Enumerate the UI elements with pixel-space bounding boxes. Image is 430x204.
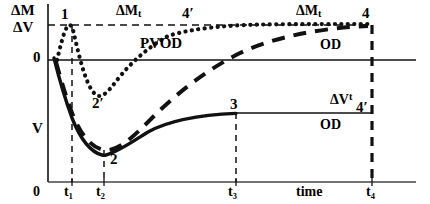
point-label-4-prime-top-text: 4′ [182, 5, 194, 21]
x-tick-label-t3: t₃ [228, 185, 237, 199]
curve-label-od-top-text: OD [320, 37, 341, 52]
curve-label-dm-t-left-text: ΔM [116, 3, 138, 18]
point-label-4-prime-top: 4′ [182, 6, 194, 21]
curve-label-pvod: PVOD [140, 36, 182, 51]
curve-label-od-bottom-text: OD [320, 117, 341, 132]
x-tick-label-t2-text: t₂ [96, 184, 105, 199]
point-label-1: 1 [61, 7, 69, 22]
curve-label-od-top: OD [320, 38, 341, 52]
y-axis-label-delta-v: ΔV [13, 20, 33, 35]
x-tick-label-t4-text: t₄ [366, 184, 375, 199]
point-label-4-top-text: 4 [362, 5, 370, 21]
curve-label-dm-t-right-sub: t [318, 8, 321, 19]
x-tick-label-t1-text: t₁ [64, 184, 73, 199]
point-label-2: 2 [110, 152, 118, 167]
curve-label-dm-t-left: ΔMt [116, 4, 141, 19]
curve-label-pvod-text: PVOD [140, 35, 182, 51]
series-dv-od-solid [54, 58, 236, 155]
point-label-2-prime-text: 2′ [92, 95, 104, 111]
curve-label-dm-t-right: ΔMt [296, 4, 321, 19]
point-label-4-prime-low: 4′ [356, 100, 368, 115]
x-tick-label-t4: t₄ [366, 185, 375, 199]
curve-label-dv-t-sup: t [349, 91, 352, 102]
y-axis-v-text: V [32, 120, 43, 136]
curve-label-dm-t-right-text: ΔM [296, 3, 318, 18]
x-axis-origin-text: 0 [33, 184, 40, 199]
curve-label-dm-t-left-sub: t [138, 8, 141, 19]
curve-label-dv-t-text: ΔV [330, 92, 349, 107]
x-tick-label-t3-text: t₃ [228, 184, 237, 199]
x-axis-title-text: time [296, 184, 322, 199]
curve-label-dv-t: ΔVt [330, 92, 352, 107]
x-axis-title: time [296, 185, 322, 199]
point-label-4-top: 4 [362, 6, 370, 21]
y-axis-label-delta-m: ΔM [11, 3, 35, 18]
curve-label-od-bottom: OD [320, 118, 341, 132]
x-tick-label-t2: t₂ [96, 185, 105, 199]
y-axis-v-label: V [32, 121, 43, 136]
y-axis-label-delta-v-text: ΔV [13, 19, 33, 35]
x-tick-label-t1: t₁ [64, 185, 73, 199]
point-label-3-text: 3 [230, 96, 238, 112]
point-label-3: 3 [230, 97, 238, 112]
figure-canvas: ΔM ΔV 0 V 0 t₁ t₂ t₃ t₄ time 1 2′ 4′ 2 3 [0, 0, 430, 204]
point-label-4-prime-low-text: 4′ [356, 99, 368, 115]
point-label-2-prime: 2′ [92, 96, 104, 111]
point-label-2-text: 2 [110, 151, 118, 167]
y-axis-zero-label: 0 [33, 50, 41, 65]
y-axis-label-delta-m-text: ΔM [11, 2, 35, 18]
point-label-1-text: 1 [61, 6, 69, 22]
x-axis-origin-label: 0 [33, 185, 40, 199]
y-axis-zero-text: 0 [33, 49, 41, 65]
